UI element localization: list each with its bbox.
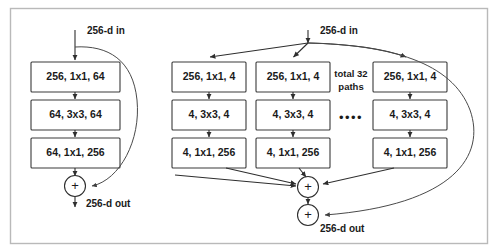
right-aggregation-sum-node: +: [298, 177, 319, 198]
paths-ellipsis: ••••: [339, 110, 363, 125]
left-layer-1: 256, 1x1, 64: [31, 62, 120, 92]
right-extra-paths-merge-line: [175, 175, 296, 186]
right-path-2: 256, 1x1, 4 4, 3x3, 4 4, 1x1, 256: [256, 62, 330, 177]
right-residual-sum-symbol: +: [304, 207, 312, 222]
right-path-1-layer-2-label: 4, 3x3, 4: [189, 108, 230, 120]
left-layer-3-label: 64, 1x1, 256: [46, 146, 105, 158]
right-path-2-merge-line: [299, 168, 306, 177]
right-input-label: 256-d in: [320, 25, 358, 36]
left-input-label: 256-d in: [87, 25, 125, 36]
diagram-canvas: 256-d in 256, 1x1, 64 64, 3x3, 64 64, 1x…: [0, 0, 498, 252]
paths-count-caption: total 32 paths ••••: [334, 68, 367, 125]
right-aggregated-block: 256-d in 256, 1x1, 4 4, 3x3, 4 4, 1x1, 2…: [172, 25, 474, 234]
right-path-3-merge-line: [323, 168, 394, 184]
right-fanout-path-3: [308, 43, 406, 57]
left-sum-symbol: +: [71, 178, 79, 193]
left-layer-3: 64, 1x1, 256: [31, 138, 120, 168]
right-output-label: 256-d out: [320, 223, 365, 234]
left-residual-block: 256-d in 256, 1x1, 64 64, 3x3, 64 64, 1x…: [31, 25, 137, 209]
left-output-label: 256-d out: [86, 198, 131, 209]
right-residual-sum-node: +: [298, 205, 319, 226]
right-path-1-layer-3-label: 4, 1x1, 256: [183, 146, 236, 158]
right-path-3-layer-1-label: 256, 1x1, 4: [384, 70, 437, 82]
figure-container: 256-d in 256, 1x1, 64 64, 3x3, 64 64, 1x…: [0, 0, 498, 252]
right-path-3-layer-2-label: 4, 3x3, 4: [390, 108, 431, 120]
paths-count-line-2: paths: [338, 81, 363, 92]
right-path-1-merge-line: [226, 168, 296, 184]
left-layer-1-label: 256, 1x1, 64: [46, 70, 105, 82]
paths-count-line-1: total 32: [334, 68, 367, 79]
right-aggregation-sum-symbol: +: [304, 179, 312, 194]
right-path-2-layer-3-label: 4, 1x1, 256: [267, 146, 320, 158]
right-path-1-layer-1-label: 256, 1x1, 4: [183, 70, 236, 82]
right-path-2-layer-2-label: 4, 3x3, 4: [273, 108, 314, 120]
right-path-3-layer-3-label: 4, 1x1, 256: [384, 146, 437, 158]
right-path-2-layer-1-label: 256, 1x1, 4: [267, 70, 320, 82]
left-layer-2: 64, 3x3, 64: [31, 100, 120, 130]
right-fanout-path-1: [210, 43, 308, 57]
left-sum-node: +: [65, 176, 86, 197]
left-layer-2-label: 64, 3x3, 64: [49, 108, 102, 120]
